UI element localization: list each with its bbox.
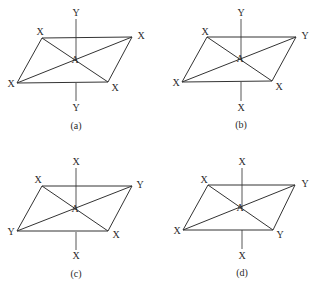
- axis-top-label: Y: [72, 7, 79, 18]
- vertex-bottom-left-label: X: [173, 225, 181, 236]
- center-label: A: [71, 203, 79, 214]
- panel-d: X X A X Y X Y (d): [173, 156, 308, 279]
- panel-b: Y X A X Y X X (b): [172, 7, 308, 131]
- vertex-bottom-left-label: X: [172, 77, 180, 88]
- panel-caption: (d): [236, 267, 248, 279]
- vertex-top-right-label: Y: [301, 30, 308, 41]
- center-label: A: [236, 53, 244, 64]
- vertex-top-left-label: X: [34, 174, 42, 185]
- vertex-top-left-label: X: [200, 174, 208, 185]
- center-label: A: [236, 202, 244, 213]
- panel-caption: (a): [70, 120, 81, 132]
- axis-bottom-label: X: [237, 102, 245, 113]
- figure-four-panels: Y Y A X X X X (a) Y X A X Y X X (b) X X …: [0, 0, 311, 281]
- panel-c: X X A X Y Y X (c): [7, 156, 143, 280]
- panel-caption: (c): [70, 268, 81, 280]
- center-label: A: [71, 54, 79, 65]
- vertex-top-left-label: X: [201, 26, 209, 37]
- vertex-bottom-right-label: X: [275, 81, 283, 92]
- vertex-bottom-right-label: X: [112, 229, 120, 240]
- panel-caption: (b): [235, 119, 247, 131]
- axis-top-label: X: [238, 156, 246, 167]
- vertex-top-right-label: Y: [301, 178, 308, 189]
- axis-top-label: X: [72, 156, 80, 167]
- vertex-bottom-left-label: X: [7, 78, 15, 89]
- panel-a: Y Y A X X X X (a): [7, 7, 145, 132]
- axis-bottom-label: Y: [72, 102, 79, 113]
- vertex-top-right-label: X: [137, 30, 145, 41]
- vertex-top-left-label: X: [36, 26, 44, 37]
- vertex-bottom-left-label: Y: [7, 226, 14, 237]
- axis-top-label: Y: [237, 7, 244, 18]
- vertex-bottom-right-label: Y: [276, 229, 283, 240]
- vertex-bottom-right-label: X: [111, 82, 119, 93]
- axis-bottom-label: X: [238, 250, 246, 261]
- axis-bottom-label: X: [72, 250, 80, 261]
- vertex-top-right-label: Y: [136, 179, 143, 190]
